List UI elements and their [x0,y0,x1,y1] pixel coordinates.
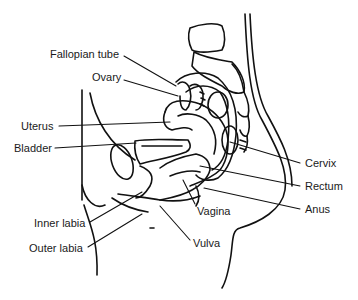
anatomy-diagram: Fallopian tube Ovary Uterus Bladder Inne… [0,0,358,300]
bladder [106,139,190,182]
spine [189,24,250,152]
label-bladder: Bladder [14,142,52,154]
label-fallopian-tube: Fallopian tube [50,48,119,60]
rectum-colon [176,73,238,180]
vagina-vulva [112,154,210,228]
label-ovary: Ovary [92,71,121,83]
label-rectum: Rectum [305,180,343,192]
label-vulva: Vulva [193,237,220,249]
label-uterus: Uterus [21,120,53,132]
label-vagina: Vagina [197,205,230,217]
label-anus: Anus [305,203,330,215]
label-cervix: Cervix [305,157,336,169]
anatomy-line-art [0,0,358,300]
label-outer-labia: Outer labia [29,242,83,254]
label-inner-labia: Inner labia [34,217,85,229]
uterus [164,101,228,186]
